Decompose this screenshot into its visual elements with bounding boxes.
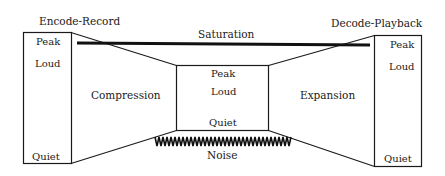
saturation-label: Saturation (198, 28, 255, 40)
encode-peak-label: Peak (36, 36, 61, 47)
decode-loud-label: Loud (389, 61, 415, 72)
noise-zigzag (155, 137, 291, 146)
decode-playback-title: Decode-Playback (331, 17, 423, 29)
decode-level-box (375, 36, 422, 167)
compression-bottom-line (71, 131, 177, 164)
compressed-quiet-label: Quiet (209, 117, 237, 128)
encode-loud-label: Loud (35, 58, 61, 69)
decode-quiet-label: Quiet (384, 153, 412, 164)
expansion-bottom-line (269, 131, 375, 167)
encode-record-title: Encode-Record (39, 15, 120, 27)
compressed-loud-label: Loud (211, 86, 237, 97)
decode-peak-label: Peak (390, 39, 415, 50)
saturation-line (77, 43, 370, 45)
compander-diagram: Encode-Record Decode-Playback Saturation… (0, 0, 445, 176)
compression-top-line (71, 33, 177, 66)
expansion-label: Expansion (300, 89, 355, 101)
encode-quiet-label: Quiet (32, 151, 60, 162)
noise-label: Noise (207, 149, 237, 161)
compression-label: Compression (91, 89, 161, 101)
expansion-top-line (269, 36, 375, 66)
encode-level-box (24, 33, 72, 164)
compressed-peak-label: Peak (211, 68, 236, 79)
